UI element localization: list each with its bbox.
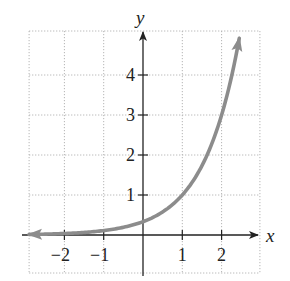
y-tick-label: 4 — [126, 65, 135, 85]
x-axis-label: x — [265, 225, 275, 246]
x-tick-label: −2 — [51, 245, 70, 265]
y-tick-label: 3 — [126, 105, 135, 125]
y-axis-label: y — [134, 7, 145, 28]
axes — [22, 32, 258, 276]
x-tick-label: −1 — [90, 245, 109, 265]
exponential-graph: −2−1121234 x y — [0, 0, 290, 281]
y-tick-label: 1 — [126, 185, 135, 205]
x-tick-label: 1 — [178, 245, 187, 265]
y-tick-label: 2 — [126, 145, 135, 165]
grid-lines — [29, 31, 260, 273]
x-tick-label: 2 — [217, 245, 226, 265]
